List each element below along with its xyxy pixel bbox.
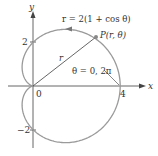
- y-tick-label-2: 2: [22, 37, 28, 47]
- point-p-marker: [94, 35, 98, 39]
- point-p-label: P(r, θ): [99, 30, 126, 40]
- y-axis-arrow-icon: [31, 11, 36, 18]
- equation-label: r = 2(1 + cos θ): [62, 14, 131, 24]
- radius-line: [33, 37, 96, 86]
- y-axis-label: y: [28, 2, 35, 12]
- cardioid-figure: y x 0 4 2 −2 r = 2(1 + cos θ) P(r, θ) r …: [0, 0, 158, 156]
- x-axis-label: x: [148, 81, 153, 91]
- curve-direction-arrow-icon: [65, 27, 72, 32]
- x-axis-arrow-icon: [139, 84, 146, 89]
- radius-label: r: [59, 53, 64, 63]
- angle-label: θ = 0, 2π: [72, 66, 112, 76]
- x-tick-label-4: 4: [120, 89, 126, 99]
- y-tick-label-neg2: −2: [17, 125, 30, 135]
- origin-label: 0: [36, 89, 42, 99]
